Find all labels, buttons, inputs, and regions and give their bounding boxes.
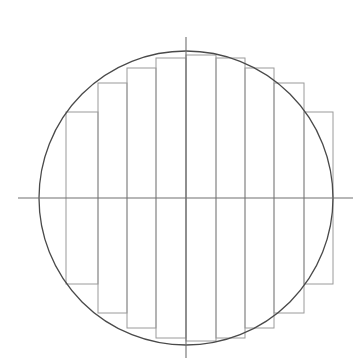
axes-group xyxy=(18,37,353,358)
circle-rectangles-diagram xyxy=(0,0,364,363)
figure-canvas xyxy=(0,0,364,363)
